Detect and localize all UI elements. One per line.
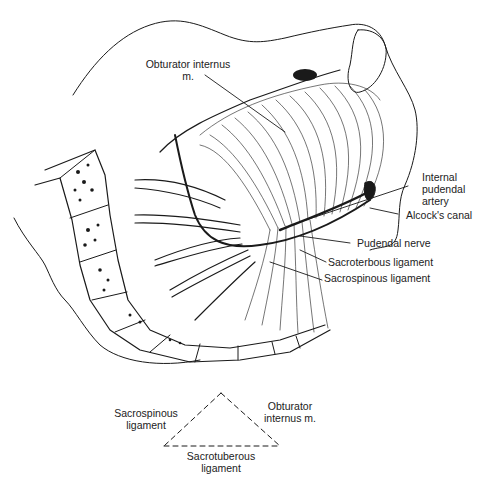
schematic-label-obturator: Obturator internus m. [250,400,330,424]
label-text: Sacrotuberous [176,450,266,462]
label-internal-pudendal-artery: Internal pudendal artery [422,171,465,207]
label-text: ligament [104,419,188,431]
label-text: pudendal [422,183,465,195]
label-sacroterbous-ligament: Sacroterbous ligament [328,256,433,268]
label-pudendal-nerve: Pudendal nerve [357,237,431,249]
label-text: ligament [176,462,266,474]
label-text: m. [128,70,248,82]
label-text: Sacrospinous [104,407,188,419]
anatomy-figure: Obturator internus m. Internal pudendal … [0,0,492,486]
label-alcocks-canal: Alcock's canal [406,209,472,221]
label-text: Internal [422,171,465,183]
label-text: Obturator internus [128,58,248,70]
schematic-label-sacrospinous: Sacrospinous ligament [104,407,188,431]
label-text: Obturator [250,400,330,412]
label-sacrospinous-ligament: Sacrospinous ligament [324,272,430,284]
label-obturator-internus: Obturator internus m. [128,58,248,82]
label-text: artery [422,195,465,207]
label-text: internus m. [250,412,330,424]
schematic-label-sacrotuberous: Sacrotuberous ligament [176,450,266,474]
